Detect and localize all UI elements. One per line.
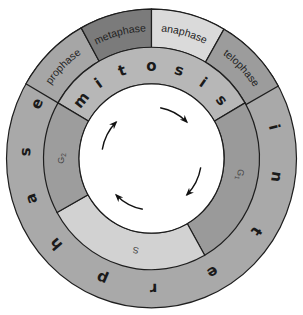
mitosis-letter: o	[146, 57, 156, 75]
center-area	[79, 84, 224, 233]
center-circle	[79, 84, 224, 233]
cell-cycle-diagram: prophasemetaphaseanaphasetelophasemitosi…	[0, 0, 303, 315]
interphase-letter: s	[16, 147, 34, 157]
interphase-letter: r	[149, 280, 157, 298]
